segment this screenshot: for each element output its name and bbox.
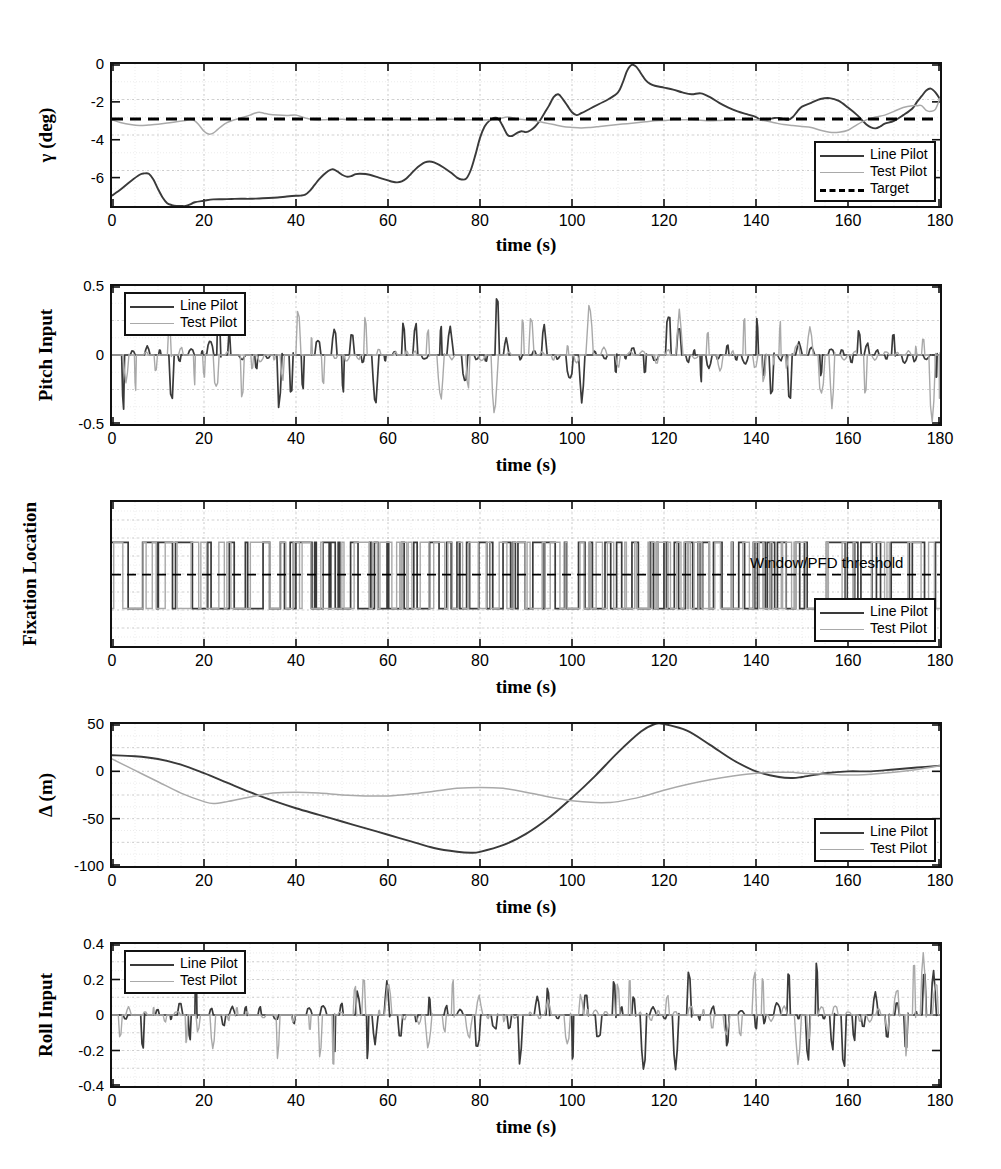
y-tick-label: 0	[46, 1006, 104, 1023]
legend-label: Test Pilot	[180, 973, 237, 988]
legend-item: Line Pilot	[130, 955, 238, 972]
subplot-roll_input: Roll Input0.40.20-0.2-0.4020406080100120…	[0, 0, 1001, 1169]
x-tick-label: 20	[174, 1092, 234, 1110]
x-tick-label: 40	[266, 1092, 326, 1110]
legend-label: Line Pilot	[180, 956, 238, 971]
legend-item: Test Pilot	[130, 972, 238, 989]
x-tick-label: 80	[450, 1092, 510, 1110]
y-tick-label: -0.2	[46, 1042, 104, 1059]
y-tick-label: 0.2	[46, 971, 104, 988]
x-tick-label: 160	[818, 1092, 878, 1110]
x-tick-label: 140	[726, 1092, 786, 1110]
x-axis-label-roll_input: time (s)	[426, 1116, 626, 1138]
legend: Line PilotTest Pilot	[124, 950, 246, 994]
x-tick-label: 120	[634, 1092, 694, 1110]
x-tick-label: 100	[542, 1092, 602, 1110]
x-tick-label: 0	[82, 1092, 142, 1110]
y-tick-label: 0.4	[46, 935, 104, 952]
x-tick-label: 180	[910, 1092, 970, 1110]
figure-root: γ (deg)0-2-4-6020406080100120140160180ti…	[0, 0, 1001, 1169]
x-tick-label: 60	[358, 1092, 418, 1110]
